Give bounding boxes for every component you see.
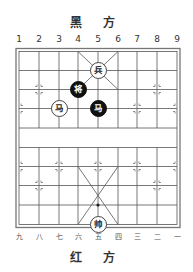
- file-label: 六: [71, 231, 85, 241]
- piece-red-horse[interactable]: 马: [51, 100, 68, 117]
- red-side-label: 红 方: [0, 248, 193, 265]
- file-label: 二: [150, 231, 164, 241]
- file-label: 五: [91, 231, 105, 241]
- file-labels-bottom: 九 八 七 六 五 四 三 二 一: [0, 0, 193, 12]
- file-label: 七: [52, 231, 66, 241]
- file-label: 九: [12, 231, 26, 241]
- file-label: 八: [32, 231, 46, 241]
- piece-black-general[interactable]: 将: [70, 81, 87, 98]
- palace-center-dot: [96, 203, 99, 206]
- file-label: 一: [170, 231, 184, 241]
- file-label: 四: [111, 231, 125, 241]
- piece-black-horse[interactable]: 马: [90, 100, 107, 117]
- file-label: 三: [130, 231, 144, 241]
- piece-red-soldier[interactable]: 兵: [90, 62, 107, 79]
